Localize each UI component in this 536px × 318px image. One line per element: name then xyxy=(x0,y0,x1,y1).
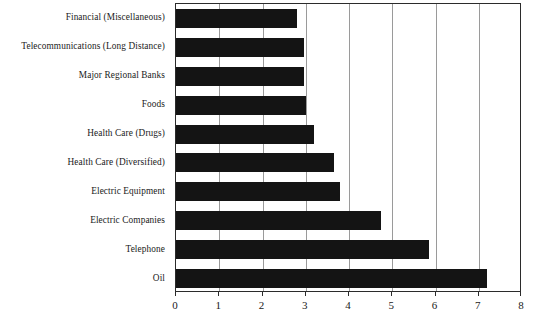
x-tick-mark-1 xyxy=(218,292,219,296)
bars-layer xyxy=(176,4,520,291)
x-tick-label-6: 6 xyxy=(432,298,438,312)
category-label: Telecommunications (Long Distance) xyxy=(21,41,165,51)
category-label: Oil xyxy=(153,273,165,283)
bar xyxy=(176,96,306,115)
x-tick-label-3: 3 xyxy=(302,298,308,312)
category-label: Electric Equipment xyxy=(91,186,165,196)
category-label: Health Care (Drugs) xyxy=(87,128,165,138)
bar xyxy=(176,182,340,201)
x-tick-label-0: 0 xyxy=(172,298,178,312)
x-tick-mark-2 xyxy=(262,292,263,296)
x-axis-tick-marks xyxy=(175,292,521,297)
x-tick-mark-0 xyxy=(175,292,176,296)
x-tick-mark-7 xyxy=(478,292,479,296)
x-tick-label-8: 8 xyxy=(518,298,524,312)
plot-area xyxy=(175,3,521,292)
bar xyxy=(176,269,487,288)
x-tick-mark-4 xyxy=(348,292,349,296)
bar xyxy=(176,9,297,28)
x-tick-mark-6 xyxy=(435,292,436,296)
category-axis-labels: Financial (Miscellaneous)Telecommunicati… xyxy=(0,0,170,292)
x-tick-label-2: 2 xyxy=(259,298,265,312)
x-axis-tick-labels: 012345678 xyxy=(175,298,521,316)
bar xyxy=(176,211,381,230)
x-tick-label-5: 5 xyxy=(389,298,395,312)
x-tick-mark-5 xyxy=(391,292,392,296)
x-tick-mark-3 xyxy=(305,292,306,296)
bar xyxy=(176,38,304,57)
horizontal-bar-chart: Financial (Miscellaneous)Telecommunicati… xyxy=(0,0,536,318)
category-label: Major Regional Banks xyxy=(79,70,165,80)
category-label: Foods xyxy=(142,99,165,109)
category-label: Financial (Miscellaneous) xyxy=(66,12,165,22)
x-tick-label-4: 4 xyxy=(345,298,351,312)
category-label: Telephone xyxy=(126,244,166,254)
bar xyxy=(176,153,334,172)
x-tick-mark-8 xyxy=(520,292,521,296)
category-label: Electric Companies xyxy=(90,215,165,225)
x-tick-label-1: 1 xyxy=(216,298,222,312)
bar xyxy=(176,67,304,86)
category-label: Health Care (Diversified) xyxy=(68,157,166,167)
bar xyxy=(176,125,314,144)
bar xyxy=(176,240,429,259)
x-tick-label-7: 7 xyxy=(475,298,481,312)
